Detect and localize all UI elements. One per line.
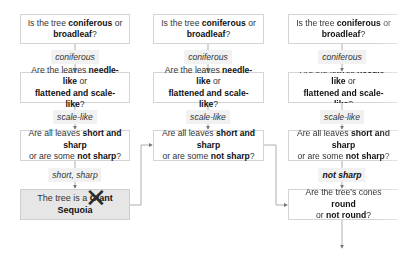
option-round: round bbox=[331, 199, 355, 209]
option-coniferous: coniferous bbox=[202, 18, 246, 28]
text: ? bbox=[366, 210, 371, 220]
text: or bbox=[246, 18, 256, 28]
col2-question-leaf-shape: Are the leaves needle-like or flattened … bbox=[153, 72, 264, 103]
text: Are the leaves bbox=[31, 65, 88, 75]
col1-answer-scale-like: scale-like bbox=[53, 110, 97, 124]
text: ? bbox=[225, 29, 230, 39]
col3-answer-coniferous: coniferous bbox=[318, 50, 366, 64]
option-not-sharp: not sharp bbox=[211, 151, 250, 161]
text: Are all leaves bbox=[162, 128, 216, 138]
col3-answer-not-sharp: not sharp bbox=[318, 168, 365, 182]
col1-question-leaf-sharpness: Are all leaves short and sharp or are so… bbox=[20, 130, 130, 161]
text: or bbox=[316, 210, 326, 220]
option-broadleaf: broadleaf bbox=[53, 29, 92, 39]
text: Are all leaves bbox=[28, 128, 82, 138]
text: ? bbox=[250, 151, 255, 161]
option-not-round: not round bbox=[326, 210, 366, 220]
text: Is the tree bbox=[28, 18, 69, 28]
option-scale-like: flattened and scale-like bbox=[35, 88, 115, 110]
col1-answer-coniferous: coniferous bbox=[51, 50, 99, 64]
col2-answer-coniferous: coniferous bbox=[184, 50, 232, 64]
text: ? bbox=[116, 151, 121, 161]
text: or bbox=[346, 76, 356, 86]
option-broadleaf: broadleaf bbox=[322, 29, 361, 39]
text: or are some bbox=[297, 151, 345, 161]
option-broadleaf: broadleaf bbox=[187, 29, 226, 39]
text: ? bbox=[213, 99, 218, 109]
text: or are some bbox=[162, 151, 210, 161]
text: or bbox=[381, 18, 391, 28]
text: ? bbox=[360, 29, 365, 39]
option-not-sharp: not sharp bbox=[346, 151, 385, 161]
text: or are some bbox=[29, 151, 77, 161]
text: The tree is a bbox=[37, 193, 90, 203]
text: Are the tree's cones bbox=[305, 187, 381, 197]
text: ? bbox=[80, 99, 85, 109]
option-coniferous: coniferous bbox=[68, 18, 112, 28]
col3-question-cone-shape: Are the tree's cones round or not round? bbox=[288, 189, 398, 220]
text: Are all leaves bbox=[297, 128, 351, 138]
text: ? bbox=[385, 151, 390, 161]
option-coniferous: coniferous bbox=[337, 18, 381, 28]
col1-question-conifer-broadleaf: Is the tree coniferous or broadleaf? bbox=[20, 14, 130, 44]
col2-question-conifer-broadleaf: Is the tree coniferous or broadleaf? bbox=[153, 14, 264, 44]
col1-result-giant-sequoia: The tree is a Giant Sequoia ✕ bbox=[20, 189, 130, 220]
col2-question-leaf-sharpness: Are all leaves short and sharp or are so… bbox=[153, 130, 264, 161]
col1-answer-short-sharp: short, sharp bbox=[48, 168, 101, 182]
text: or bbox=[211, 76, 221, 86]
col2-answer-scale-like: scale-like bbox=[186, 110, 230, 124]
text: or bbox=[112, 18, 122, 28]
option-not-sharp: not sharp bbox=[77, 151, 116, 161]
col3-question-leaf-sharpness: Are all leaves short and sharp or are so… bbox=[288, 130, 398, 161]
text: Is the tree bbox=[161, 18, 202, 28]
text: Is the tree bbox=[296, 18, 337, 28]
col3-question-conifer-broadleaf: Is the tree coniferous or broadleaf? bbox=[288, 14, 398, 44]
col1-question-leaf-shape: Are the leaves needle-like or flattened … bbox=[20, 72, 130, 103]
text: Are the leaves bbox=[165, 65, 222, 75]
col3-answer-scale-like: scale-like bbox=[320, 110, 364, 124]
option-scale-like: flattened and scale-like bbox=[168, 88, 248, 110]
x-mark-icon: ✕ bbox=[85, 185, 107, 211]
text: or bbox=[77, 76, 87, 86]
text: ? bbox=[92, 29, 97, 39]
col3-question-leaf-shape: Are the leaves needle-like or flattened … bbox=[288, 72, 398, 103]
